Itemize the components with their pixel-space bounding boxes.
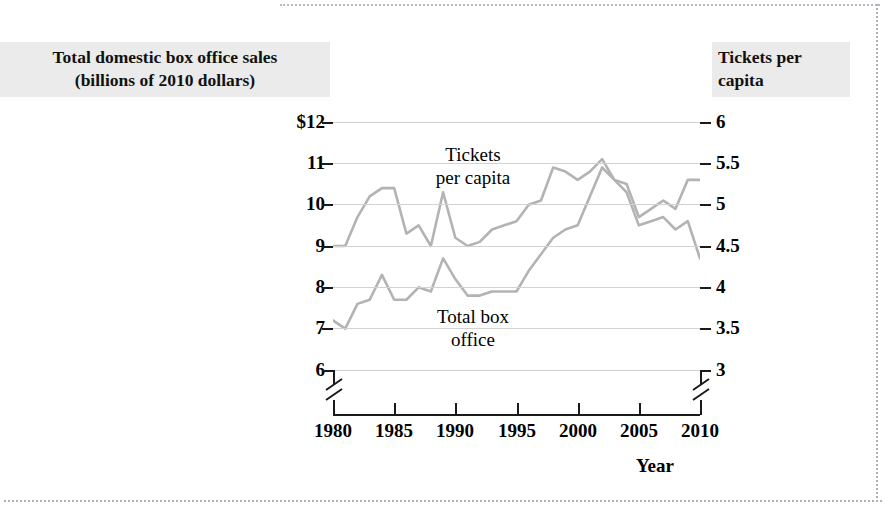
left-axis-title-line2: (billions of 2010 dollars) <box>2 69 328 92</box>
gridline <box>333 370 700 371</box>
left-tick-label-3: 9 <box>265 235 325 257</box>
right-tick-label-0: 6 <box>716 111 776 133</box>
page-border-bottom <box>4 500 882 502</box>
left-tick-mark-4 <box>322 287 333 289</box>
right-tick-mark-2 <box>700 204 711 206</box>
right-tick-mark-1 <box>700 163 711 165</box>
x-tick-3 <box>517 403 519 414</box>
annotation-total-box-office: Total box office <box>388 305 558 351</box>
annotation-tickets-line1: Tickets <box>388 143 558 166</box>
right-tick-mark-4 <box>700 287 711 289</box>
left-tick-label-2: 10 <box>265 193 325 215</box>
annotation-tickets-line2: per capita <box>388 166 558 189</box>
x-tick-label-1: 1985 <box>359 420 429 442</box>
x-axis-title: Year <box>636 455 674 477</box>
left-tick-label-6: 6 <box>265 359 325 381</box>
x-tick-label-5: 2005 <box>604 420 674 442</box>
x-tick-6 <box>700 403 702 414</box>
x-tick-0 <box>333 403 335 414</box>
left-tick-mark-0 <box>322 122 333 124</box>
right-tick-mark-0 <box>700 122 711 124</box>
x-tick-1 <box>394 403 396 414</box>
right-tick-mark-3 <box>700 246 711 248</box>
x-tick-label-4: 2000 <box>543 420 613 442</box>
gridline <box>333 204 700 205</box>
right-axis-title-line2: capita <box>718 69 846 92</box>
gridline <box>333 122 700 123</box>
left-tick-mark-2 <box>322 204 333 206</box>
left-tick-label-0: $12 <box>265 111 325 133</box>
left-tick-mark-3 <box>322 246 333 248</box>
right-axis-title-line1: Tickets per <box>718 46 846 69</box>
left-tick-mark-5 <box>322 328 333 330</box>
annotation-boxoffice-line2: office <box>388 328 558 351</box>
right-tick-label-6: 3 <box>716 359 776 381</box>
left-tick-mark-6 <box>322 370 333 372</box>
right-tick-label-1: 5.5 <box>716 152 776 174</box>
x-axis-line <box>333 414 700 416</box>
left-tick-label-5: 7 <box>265 317 325 339</box>
left-tick-label-1: 11 <box>265 152 325 174</box>
left-tick-label-4: 8 <box>265 276 325 298</box>
left-axis-break-icon <box>320 378 350 404</box>
right-tick-label-4: 4 <box>716 276 776 298</box>
right-tick-label-2: 5 <box>716 193 776 215</box>
x-tick-4 <box>578 403 580 414</box>
left-axis-title: Total domestic box office sales (billion… <box>0 42 330 97</box>
chart-page: Total domestic box office sales (billion… <box>0 0 894 514</box>
right-tick-label-3: 4.5 <box>716 235 776 257</box>
x-tick-2 <box>455 403 457 414</box>
x-tick-label-6: 2010 <box>665 420 735 442</box>
right-axis-title: Tickets per capita <box>712 42 850 97</box>
annotation-tickets-per-capita: Tickets per capita <box>388 143 558 189</box>
x-tick-5 <box>639 403 641 414</box>
x-tick-label-0: 1980 <box>298 420 368 442</box>
left-tick-mark-1 <box>322 163 333 165</box>
x-tick-label-3: 1995 <box>482 420 552 442</box>
gridline <box>333 287 700 288</box>
page-border-top <box>280 4 880 6</box>
gridline <box>333 246 700 247</box>
right-tick-mark-5 <box>700 328 711 330</box>
x-tick-label-2: 1990 <box>420 420 490 442</box>
right-axis-break-icon <box>687 378 717 404</box>
left-axis-title-line1: Total domestic box office sales <box>2 46 328 69</box>
page-border-right <box>876 4 878 502</box>
right-tick-label-5: 3.5 <box>716 317 776 339</box>
annotation-boxoffice-line1: Total box <box>388 305 558 328</box>
